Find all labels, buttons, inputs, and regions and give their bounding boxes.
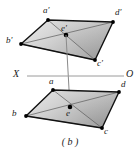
vertex-dot-d-prime <box>111 20 115 24</box>
label-c: c <box>104 127 108 136</box>
figure-caption: ( b ) <box>0 137 140 147</box>
label-d: d <box>121 80 126 89</box>
label-a-prime: a' <box>43 6 49 15</box>
vertex-dot-d <box>117 90 121 94</box>
label-e-prime: e' <box>61 24 67 33</box>
axis-label-x: X <box>13 69 19 79</box>
figure-container: a' d' c' b' e' a d c b e X O ( b ) <box>0 0 140 157</box>
label-e: e <box>66 109 70 118</box>
vertex-dot-a <box>51 88 55 92</box>
label-a: a <box>49 77 54 86</box>
lower-parallelogram <box>24 88 121 130</box>
axis-label-o: O <box>126 69 133 79</box>
label-d-prime: d' <box>115 8 121 17</box>
label-c-prime: c' <box>97 59 103 68</box>
vertex-dot-a-prime <box>46 18 50 22</box>
geometry-figure <box>0 0 140 157</box>
vertex-dot-b <box>24 114 28 118</box>
label-b: b <box>12 109 17 118</box>
vertex-dot-b-prime <box>19 42 23 46</box>
label-b-prime: b' <box>6 36 12 45</box>
